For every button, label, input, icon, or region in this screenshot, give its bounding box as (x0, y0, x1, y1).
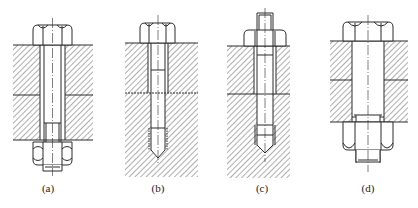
panel-c-label: (c) (256, 182, 268, 194)
panel-b (125, 15, 198, 177)
panel-d-label: (d) (362, 182, 375, 194)
fastener-diagram (0, 0, 418, 208)
panel-c (227, 8, 290, 178)
panel-a (13, 18, 93, 176)
panel-d (330, 15, 408, 172)
panel-b-label: (b) (152, 182, 165, 194)
panel-a-label: (a) (42, 182, 54, 194)
